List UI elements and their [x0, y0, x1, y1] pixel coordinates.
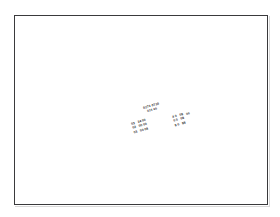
table-cell-label: 03 — [133, 130, 139, 135]
column-cell-a: 8 0 — [174, 123, 181, 128]
document-canvas: 0273 0730 015 00 03 14 00 02 00 00 03 00… — [0, 0, 280, 217]
header-line-2: 015 00 — [147, 107, 161, 114]
trailing-mark: 00 — [186, 112, 190, 116]
data-table-block: 03 14 00 02 00 00 03 00 08 — [131, 119, 150, 136]
table-cell-value: 00 08 — [140, 127, 150, 133]
content-cluster: 0273 0730 015 00 03 14 00 02 00 00 03 00… — [131, 102, 201, 150]
page-border: 0273 0730 015 00 03 14 00 02 00 00 03 00… — [14, 15, 268, 205]
column-cell-b: 88 — [181, 121, 188, 126]
header-text-block: 0273 0730 015 00 — [143, 102, 161, 114]
